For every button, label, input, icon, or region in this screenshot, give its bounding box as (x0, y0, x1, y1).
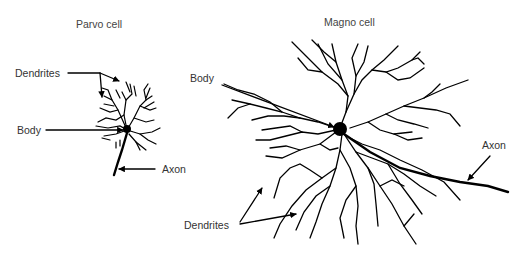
magno-dendrites-label: Dendrites (184, 220, 229, 231)
parvo-cell (46, 73, 160, 175)
magno-axon-label: Axon (482, 140, 506, 151)
magno-pointers (222, 85, 490, 224)
neuron-comparison-figure: Parvo cell Dendrites Body Axon Magno cel… (0, 0, 522, 274)
parvo-title: Parvo cell (76, 19, 122, 30)
parvo-dendrites-label: Dendrites (15, 68, 60, 79)
parvo-dendrites (96, 82, 160, 150)
magno-title: Magno cell (324, 17, 375, 28)
parvo-body-label: Body (17, 125, 41, 136)
magno-dendrites (224, 40, 468, 244)
magno-body-label: Body (190, 73, 214, 84)
magno-cell (222, 40, 508, 244)
neuron-drawing (0, 0, 522, 274)
parvo-axon-label: Axon (162, 164, 186, 175)
